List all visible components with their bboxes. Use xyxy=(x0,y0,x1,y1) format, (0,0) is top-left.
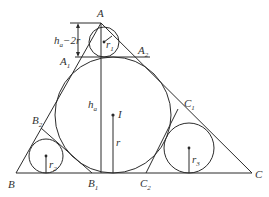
triangle-abc xyxy=(16,23,252,173)
label-b: B xyxy=(8,178,15,190)
label-c: C xyxy=(255,168,263,180)
label-r: r xyxy=(116,136,121,148)
center-dot-r3 xyxy=(188,147,191,150)
label-a: A xyxy=(96,7,104,19)
label-dimension: ha−2r xyxy=(54,34,81,49)
label-r3: r3 xyxy=(192,153,200,168)
center-dot-r2 xyxy=(45,155,48,158)
label-r1: r1 xyxy=(106,38,114,53)
center-dot-i xyxy=(111,113,114,116)
center-dot-r1 xyxy=(103,41,106,44)
diagram-svg: A B C A1 A2 B2 B1 C1 C2 I ha r r1 r2 r3 … xyxy=(0,0,269,197)
label-c1: C1 xyxy=(184,97,195,112)
label-ha: ha xyxy=(88,98,98,113)
tangent-c1c2 xyxy=(146,109,178,173)
label-r2: r2 xyxy=(49,158,57,173)
label-c2: C2 xyxy=(140,177,151,192)
label-a1: A1 xyxy=(59,55,70,70)
triangle-diagram: A B C A1 A2 B2 B1 C1 C2 I ha r r1 r2 r3 … xyxy=(0,0,269,197)
label-b2: B2 xyxy=(32,114,43,129)
arrow-up-icon xyxy=(76,23,80,28)
arrow-down-icon xyxy=(76,52,80,57)
label-b1: B1 xyxy=(88,177,98,192)
label-i: I xyxy=(117,108,123,120)
